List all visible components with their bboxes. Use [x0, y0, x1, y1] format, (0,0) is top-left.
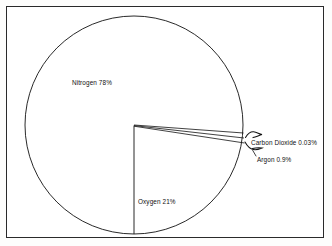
callout-brace-carbon-dioxide [246, 132, 263, 138]
slice-label-nitrogen: Nitrogen 78% [72, 80, 112, 86]
chart-screenshot: Nitrogen 78% Oxygen 21% Carbon Dioxide 0… [0, 0, 332, 246]
slice-label-oxygen: Oxygen 21% [138, 199, 176, 205]
callout-leader-argon [253, 150, 257, 156]
pie-chart [0, 0, 332, 246]
slice-label-carbon-dioxide: Carbon Dioxide 0.03% [251, 140, 317, 146]
slice-label-argon: Argon 0.9% [257, 157, 291, 163]
